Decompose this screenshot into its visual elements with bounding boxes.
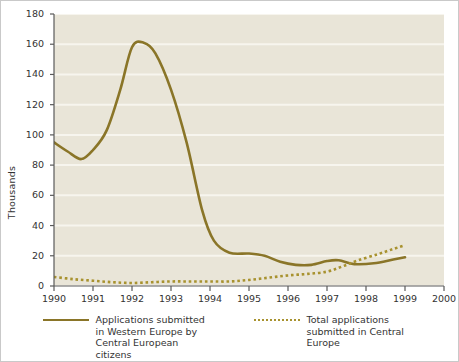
legend-entry-applications-western-europe: Applications submitted in Western Europe…: [43, 314, 208, 362]
x-tick-label: 1990: [34, 294, 74, 304]
solid-line-swatch: [43, 314, 89, 326]
x-tick-label: 1993: [151, 294, 191, 304]
x-tick-label: 1994: [190, 294, 230, 304]
y-tick-label: 20: [4, 251, 44, 261]
dotted-line-swatch: [254, 314, 300, 326]
legend-label: Applications submitted in Western Europe…: [96, 314, 208, 360]
x-tick-label: 1992: [112, 294, 152, 304]
plot-area: [54, 14, 444, 286]
chart-legend: Applications submitted in Western Europe…: [1, 314, 459, 362]
legend-label: Total applications submitted in Central …: [307, 314, 419, 349]
y-tick-label: 180: [4, 9, 44, 19]
y-axis-title: Thousands: [6, 138, 17, 248]
x-tick-label: 1995: [229, 294, 269, 304]
y-tick-label: 0: [4, 281, 44, 291]
y-tick-label: 140: [4, 69, 44, 79]
x-tick-label: 1998: [346, 294, 386, 304]
x-tick-label: 1999: [385, 294, 425, 304]
series-line-0: [54, 42, 405, 266]
chart-container: 020406080100120140160180 199019911992199…: [0, 0, 459, 362]
y-tick-label: 120: [4, 100, 44, 110]
y-tick-label: 160: [4, 39, 44, 49]
x-tick-label: 2000: [424, 294, 459, 304]
legend-entry-total-applications-central-europe: Total applications submitted in Central …: [254, 314, 419, 362]
series-lines: [54, 14, 444, 286]
x-tick-label: 1996: [268, 294, 308, 304]
x-tick-label: 1991: [73, 294, 113, 304]
x-tick-label: 1997: [307, 294, 347, 304]
